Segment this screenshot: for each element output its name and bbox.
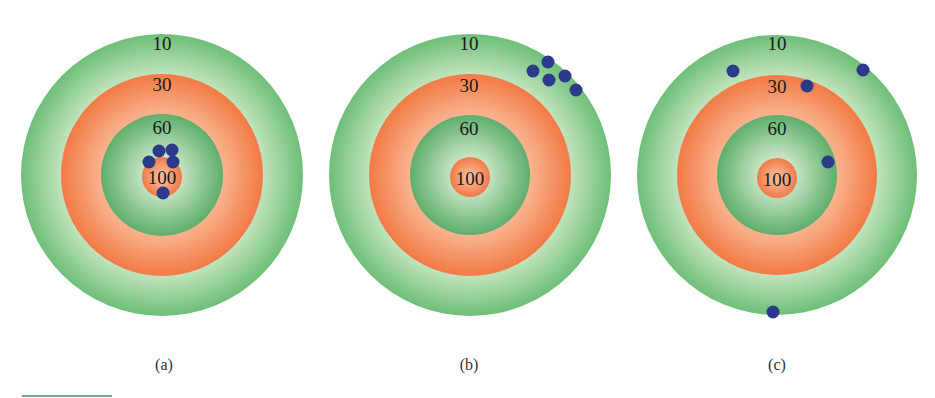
hit-dot: [543, 74, 556, 87]
ring-label-30: 30: [768, 76, 787, 97]
caption-c: (c): [747, 356, 807, 374]
targets-canvas: 10 30 60 100 10 30 60 100: [0, 0, 935, 398]
ring-label-60: 60: [768, 118, 787, 139]
ring-label-100: 100: [148, 167, 177, 188]
ring-label-60: 60: [460, 118, 479, 139]
ring-label-30: 30: [460, 75, 479, 96]
hit-dot: [527, 65, 540, 78]
hit-dot: [767, 306, 780, 319]
hit-dot: [542, 56, 555, 69]
caption-a: (a): [134, 356, 194, 374]
hit-dot: [559, 70, 572, 83]
hit-dot: [857, 64, 870, 77]
ring-label-10: 10: [768, 33, 787, 54]
hit-dot: [157, 187, 170, 200]
hit-dot: [166, 144, 179, 157]
target-a-rings: 10 30 60 100: [21, 33, 303, 316]
ring-label-10: 10: [153, 33, 172, 54]
decorative-rule: [22, 395, 112, 397]
ring-label-30: 30: [153, 74, 172, 95]
ring-label-100: 100: [456, 168, 485, 189]
ring-label-10: 10: [460, 33, 479, 54]
caption-b: (b): [439, 356, 499, 374]
hit-dot: [727, 65, 740, 78]
ring-label-100: 100: [763, 169, 792, 190]
target-accuracy-figure: 10 30 60 100 10 30 60 100: [0, 0, 935, 398]
hit-dot: [801, 80, 814, 93]
hit-dot: [822, 156, 835, 169]
hit-dot: [143, 156, 156, 169]
ring-label-60: 60: [153, 117, 172, 138]
hit-dot: [167, 156, 180, 169]
hit-dot: [570, 84, 583, 97]
target-c-rings: 10 30 60 100: [637, 33, 917, 315]
hit-dot: [153, 145, 166, 158]
